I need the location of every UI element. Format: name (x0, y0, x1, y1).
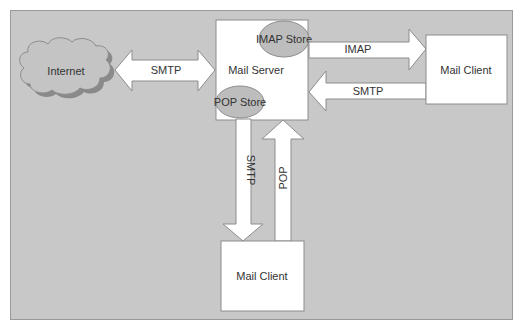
pop-store-label: POP Store (214, 96, 266, 108)
smtp-label-down: SMTP (245, 155, 257, 186)
imap-store-label: IMAP Store (256, 33, 312, 45)
mail-client-bottom-label: Mail Client (236, 270, 287, 282)
smtp-label-internet: SMTP (151, 64, 182, 76)
mail-flow-diagram: Internet SMTP Mail Server IMAP Store POP… (0, 0, 528, 331)
internet-label: Internet (47, 65, 84, 77)
pop-label: POP (277, 166, 289, 189)
mail-client-right-label: Mail Client (440, 64, 491, 76)
imap-label: IMAP (345, 43, 372, 55)
smtp-label-right: SMTP (353, 85, 384, 97)
arrow-internet-server-smtp: SMTP (115, 50, 215, 91)
arrow-smtp-to-server: SMTP (309, 71, 426, 111)
internet-cloud: Internet (20, 38, 115, 99)
arrow-pop-to-server: POP (262, 120, 304, 241)
mail-server-label: Mail Server (228, 64, 284, 76)
arrow-smtp-to-bottom-client: SMTP (223, 119, 263, 241)
arrow-imap-to-client: IMAP (309, 29, 426, 70)
mail-client-bottom-node: Mail Client (221, 241, 304, 311)
mail-client-right-node: Mail Client (426, 35, 507, 104)
